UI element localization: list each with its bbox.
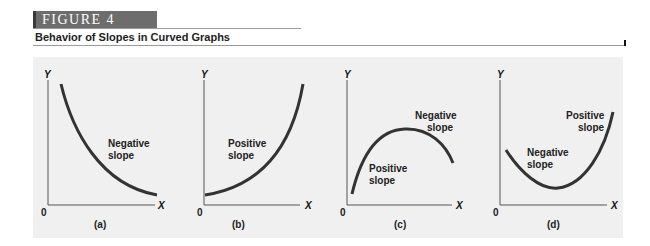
graph-b: Y X 0 (b) Positive slope xyxy=(197,69,313,230)
y-axis-label: Y xyxy=(44,69,52,80)
slope-label-line1: Negative xyxy=(108,138,150,149)
origin-label: 0 xyxy=(41,207,47,218)
origin-label: 0 xyxy=(493,207,499,218)
slope-label-positive-line1: Positive xyxy=(369,163,408,174)
panel-caption: (a) xyxy=(94,219,106,230)
panel-caption: (c) xyxy=(394,219,406,230)
x-axis-label: X xyxy=(157,200,166,211)
slope-label-positive-line1: Positive xyxy=(566,110,605,121)
curve-hill xyxy=(352,129,453,194)
slope-label-positive-line2: slope xyxy=(578,122,605,133)
slope-label-negative-line2: slope xyxy=(427,122,454,133)
y-axis-label: Y xyxy=(497,69,505,80)
slope-label-negative-line1: Negative xyxy=(527,147,569,158)
slope-label-positive-line2: slope xyxy=(369,175,396,186)
x-axis-label: X xyxy=(455,200,464,211)
y-axis-label: Y xyxy=(201,69,209,80)
slope-graphs: Y X 0 (a) Negative slope Y X 0 (b) Posit… xyxy=(0,0,650,246)
x-axis-label: X xyxy=(304,200,313,211)
origin-label: 0 xyxy=(340,207,346,218)
slope-label-negative-line2: slope xyxy=(527,159,554,170)
slope-label-negative-line1: Negative xyxy=(415,110,457,121)
origin-label: 0 xyxy=(197,207,203,218)
x-axis-label: X xyxy=(610,200,619,211)
y-axis-label: Y xyxy=(344,69,352,80)
graph-d: Y X 0 (d) Positive slope Negative slope xyxy=(493,69,619,230)
slope-label-line1: Positive xyxy=(228,138,267,149)
panel-caption: (d) xyxy=(547,219,560,230)
slope-label-line2: slope xyxy=(228,150,255,161)
slope-label-line2: slope xyxy=(108,150,135,161)
graph-c: Y X 0 (c) Negative slope Positive slope xyxy=(340,69,464,230)
panel-caption: (b) xyxy=(232,219,245,230)
graph-a: Y X 0 (a) Negative slope xyxy=(41,69,166,230)
